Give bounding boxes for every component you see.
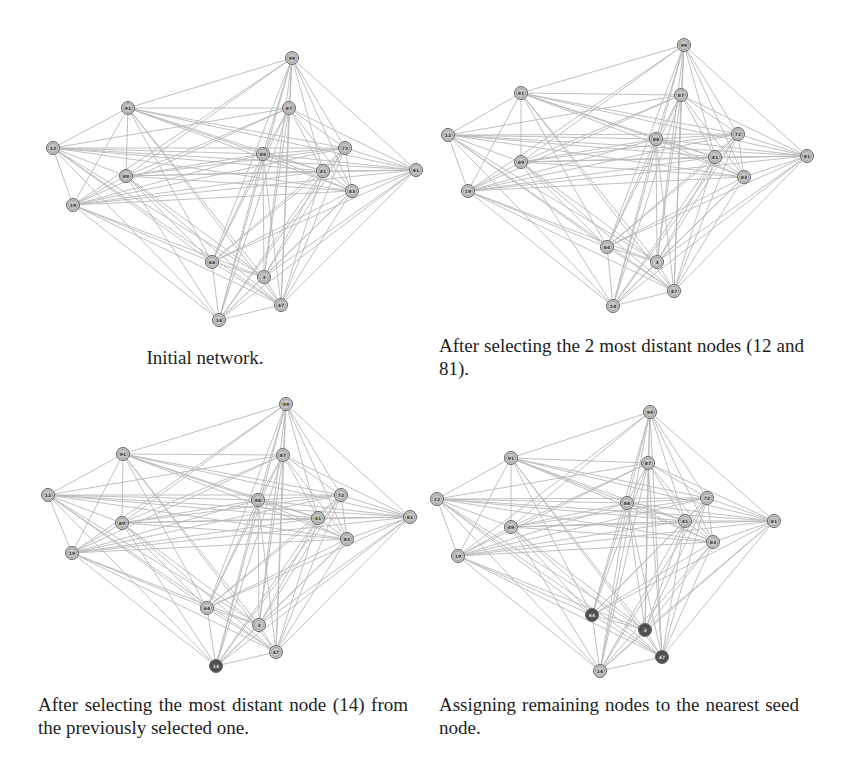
node-12: 12	[47, 142, 60, 155]
edge	[437, 498, 707, 499]
edge	[511, 458, 707, 498]
network-graph-two-distant: 99918712887289418183196434714	[425, 0, 850, 320]
edge	[48, 455, 283, 495]
node-19: 19	[462, 185, 475, 198]
node-19: 19	[452, 550, 465, 563]
edge	[511, 458, 685, 521]
edge	[126, 176, 219, 320]
edge	[122, 454, 123, 523]
node-label: 88	[260, 152, 266, 157]
node-label: 88	[653, 137, 659, 142]
node-88: 88	[257, 148, 270, 161]
edge	[521, 93, 738, 134]
node-label: 41	[315, 516, 321, 521]
node-label: 47	[273, 650, 279, 655]
node-label: 99	[681, 43, 687, 48]
node-47: 47	[270, 646, 283, 659]
node-label: 87	[678, 93, 684, 98]
node-label: 99	[283, 402, 289, 407]
edge	[276, 539, 347, 652]
edge	[521, 162, 607, 247]
node-14: 14	[210, 660, 223, 673]
edge	[650, 412, 774, 521]
node-47: 47	[656, 651, 669, 664]
edge	[521, 93, 715, 157]
edge	[592, 615, 600, 671]
edge	[511, 458, 774, 521]
node-88: 88	[621, 497, 634, 510]
node-89: 89	[116, 517, 129, 530]
node-14: 14	[607, 300, 620, 313]
node-91: 91	[515, 87, 528, 100]
panel-assign-nodes: 99918712887289418183196434714 Assigning …	[425, 389, 850, 778]
edge	[613, 139, 656, 306]
node-label: 81	[407, 515, 413, 520]
node-47: 47	[275, 299, 288, 312]
node-81: 81	[768, 515, 781, 528]
node-label: 12	[45, 493, 51, 498]
node-label: 64	[604, 245, 610, 250]
node-label: 72	[735, 132, 741, 137]
edge	[72, 495, 341, 553]
panel-third-seed: 99918712887289418183196434714 After sele…	[0, 389, 425, 778]
node-label: 91	[125, 106, 131, 111]
edge	[48, 495, 410, 517]
edge	[323, 170, 416, 171]
edge	[511, 412, 650, 458]
node-64: 64	[206, 256, 219, 269]
node-41: 41	[679, 515, 692, 528]
edge	[521, 45, 684, 93]
edge	[600, 657, 662, 671]
node-89: 89	[505, 521, 518, 534]
edge	[281, 171, 323, 305]
edge	[123, 454, 283, 455]
node-81: 81	[801, 150, 814, 163]
edge	[73, 205, 219, 320]
node-91: 91	[117, 448, 130, 461]
edge	[511, 521, 774, 527]
node-81: 81	[410, 164, 423, 177]
node-41: 41	[312, 512, 325, 525]
node-3: 3	[253, 619, 266, 632]
node-label: 19	[70, 203, 76, 208]
node-87: 87	[277, 449, 290, 462]
node-72: 72	[335, 489, 348, 502]
edge	[684, 45, 807, 156]
node-label: 81	[771, 519, 777, 524]
node-label: 47	[278, 303, 284, 308]
node-64: 64	[201, 602, 214, 615]
node-label: 88	[255, 498, 261, 503]
caption-third-seed: After selecting the most distant node (1…	[38, 693, 408, 739]
node-label: 19	[69, 551, 75, 556]
edge	[128, 108, 345, 148]
node-83: 83	[738, 171, 751, 184]
edge	[448, 135, 674, 291]
edge	[521, 93, 681, 95]
node-label: 99	[647, 410, 653, 415]
edge	[126, 108, 128, 176]
edge	[216, 518, 318, 666]
node-99: 99	[280, 398, 293, 411]
node-label: 14	[610, 304, 616, 309]
edge	[592, 615, 645, 630]
node-87: 87	[642, 457, 655, 470]
node-12: 12	[431, 493, 444, 506]
node-label: 64	[204, 606, 210, 611]
edge	[681, 95, 807, 156]
edge	[258, 500, 259, 625]
edge	[292, 58, 416, 170]
edge	[276, 518, 318, 652]
node-label: 89	[123, 174, 129, 179]
node-label: 91	[508, 456, 514, 461]
node-12: 12	[442, 129, 455, 142]
node-14: 14	[594, 665, 607, 678]
edges	[48, 404, 410, 666]
node-label: 81	[413, 168, 419, 173]
edge	[128, 58, 292, 108]
node-label: 89	[508, 525, 514, 530]
edge	[521, 162, 613, 306]
edge	[48, 495, 259, 625]
edge	[207, 608, 216, 666]
node-41: 41	[317, 165, 330, 178]
edge	[72, 553, 276, 652]
